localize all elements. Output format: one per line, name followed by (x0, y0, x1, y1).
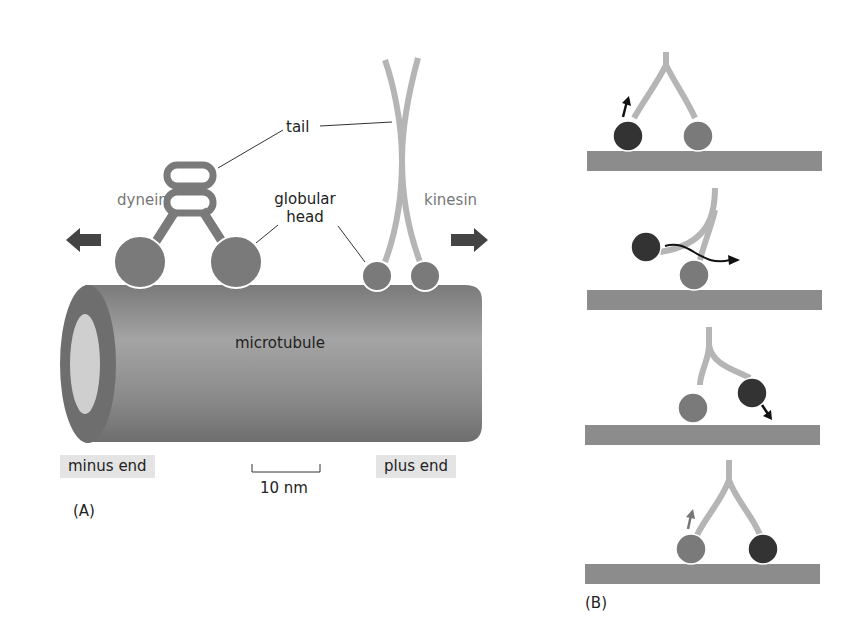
microtubule (60, 285, 482, 443)
dynein-label: dynein (117, 193, 168, 208)
globular-head-line1: globular (270, 192, 340, 207)
step-1 (587, 52, 822, 171)
microtubule-label: microtubule (235, 336, 325, 351)
step-3 (585, 327, 820, 445)
kinesin-label: kinesin (424, 193, 477, 208)
kinesin-motor (362, 58, 440, 291)
panel-b-label: (B) (585, 594, 607, 612)
tail-label: tail (286, 120, 309, 135)
arrow-down-icon (762, 405, 768, 414)
dynein-motor (114, 165, 262, 288)
globular-head-label: globular head (270, 192, 340, 225)
globular-head-line2: head (270, 210, 340, 225)
step-2 (587, 188, 822, 310)
arrow-left-icon (66, 228, 101, 252)
plus-end-label: plus end (376, 455, 456, 478)
scale-bar (252, 464, 320, 472)
arrow-right-icon (451, 228, 488, 252)
panel-a-label: (A) (73, 502, 95, 520)
scale-bar-label: 10 nm (260, 481, 308, 496)
diagram-canvas (0, 0, 856, 640)
minus-end-label: minus end (60, 455, 155, 478)
step-4 (585, 460, 820, 584)
